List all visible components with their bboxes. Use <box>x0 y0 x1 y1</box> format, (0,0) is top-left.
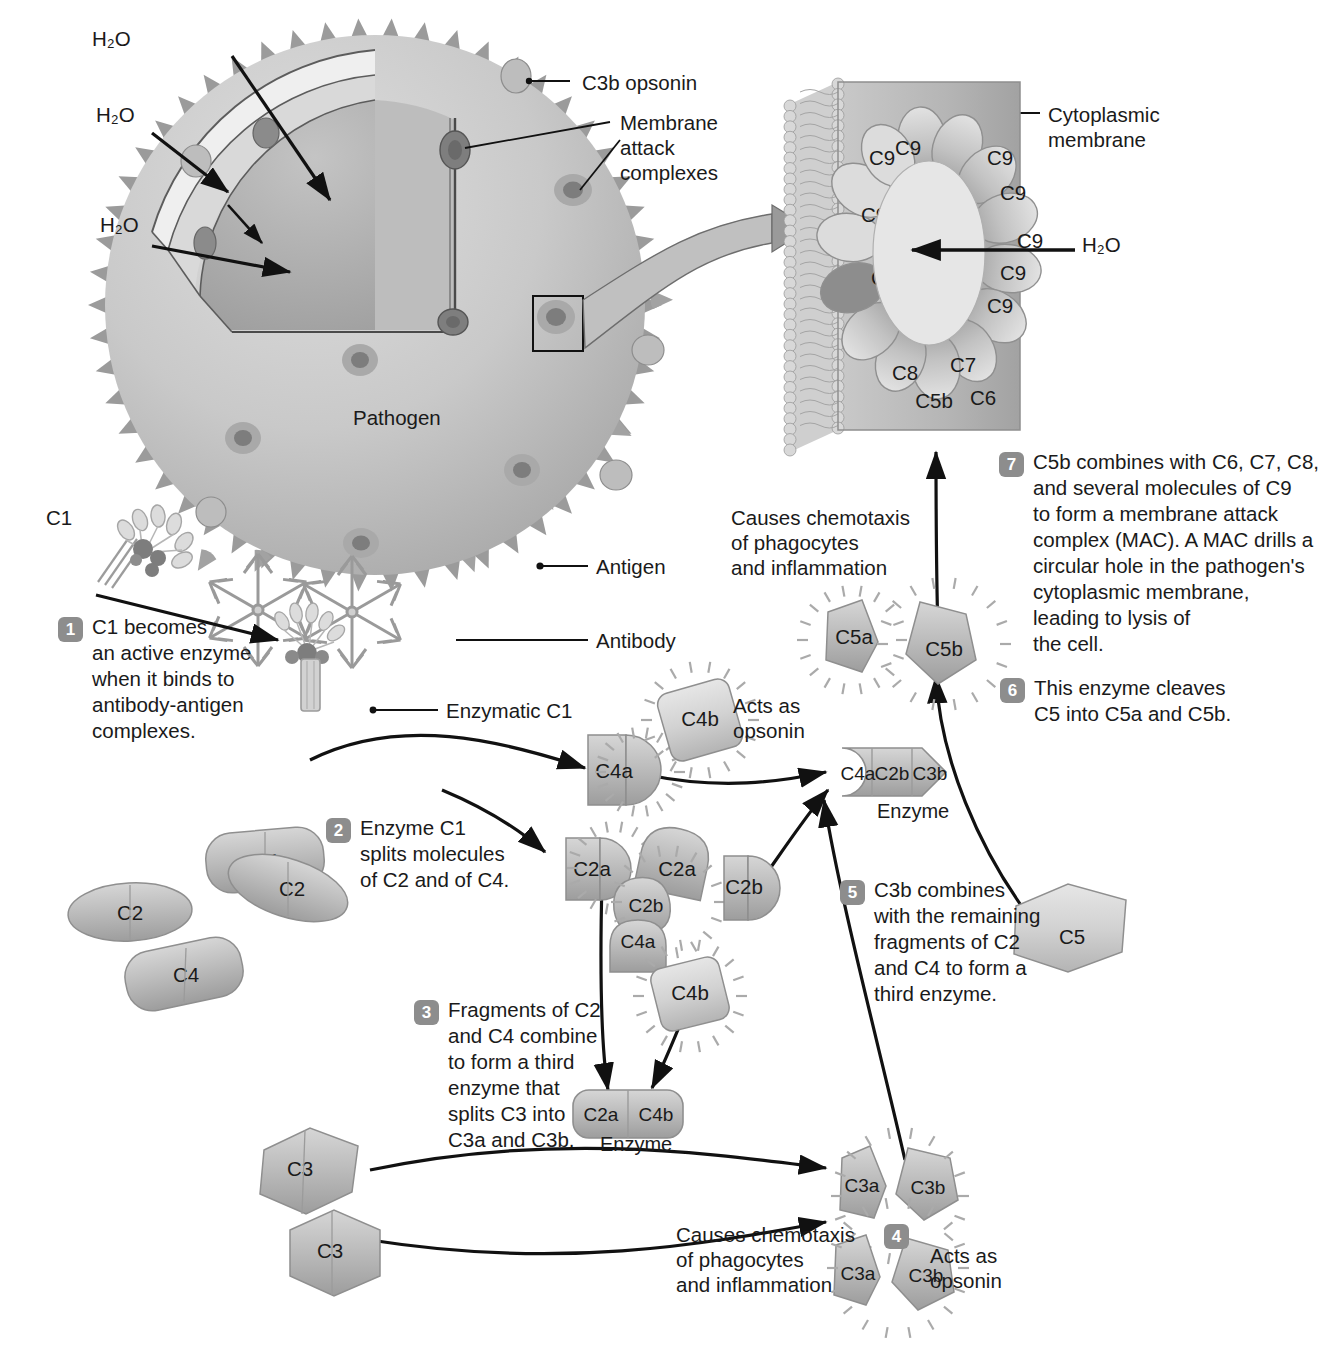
mac-subunit-label: C7 <box>950 353 976 376</box>
molecule-label: C5 <box>1059 925 1085 948</box>
step-text-3: Fragments of C2 and C4 combine to form a… <box>448 997 601 1153</box>
step-badge-4: 4 <box>884 1224 909 1249</box>
label-acts-as-opsonin-c3b: Acts as opsonin <box>930 1243 1002 1293</box>
step-badge-6: 6 <box>1000 678 1025 703</box>
molecule-label: C4a <box>595 759 633 782</box>
mac-subunit-label: C9 <box>1000 261 1026 284</box>
label-chemotaxis-c5a: Causes chemotaxis of phagocytes and infl… <box>731 505 910 580</box>
molecule-label: C4 <box>173 963 199 986</box>
step-badge-3: 3 <box>414 1000 439 1025</box>
label-acts-as-opsonin-c4b: Acts as opsonin <box>733 693 805 743</box>
label-antibody: Antibody <box>596 628 676 653</box>
molecule-label: C2b <box>629 895 664 916</box>
molecule-label: C4b <box>639 1104 674 1125</box>
step-badge-2: 2 <box>326 818 351 843</box>
molecule-label: C3b <box>911 1177 946 1198</box>
molecule-label: C2b <box>875 763 910 784</box>
molecule-label: C4a <box>621 931 656 952</box>
molecule-label: C2a <box>573 857 611 880</box>
pathogen-cell <box>88 18 810 592</box>
mac-subunit-label: C6 <box>970 386 996 409</box>
mac-subunit-label: C9 <box>987 146 1013 169</box>
mac-detail-panel: C9C9C9C9C9C9C9C9C9C9C8C7C6C5b <box>784 78 1075 456</box>
label-antigen: Antigen <box>596 554 666 579</box>
label-h2o-mac: H₂O <box>1082 232 1121 257</box>
label-enzyme-c2a-c4b: Enzyme <box>600 1133 672 1156</box>
molecule-label: C3b <box>913 763 948 784</box>
molecule-label: C5b <box>925 637 963 660</box>
label-chemotaxis-c3a: Causes chemotaxis of phagocytes and infl… <box>676 1222 855 1297</box>
label-h2o-3: H₂O <box>100 212 139 237</box>
complement-system-diagram: C9C9C9C9C9C9C9C9C9C9C8C7C6C5b <box>0 0 1338 1351</box>
molecule-label: C3 <box>317 1239 343 1262</box>
mac-subunit-label: C9 <box>987 294 1013 317</box>
molecule-label: C4a <box>841 763 876 784</box>
label-pathogen: Pathogen <box>353 405 441 430</box>
molecule-label: C4b <box>671 981 709 1004</box>
step-text-5: C3b combines with the remaining fragment… <box>874 877 1040 1007</box>
step-text-6: This enzyme cleaves C5 into C5a and C5b. <box>1034 675 1231 727</box>
molecule-label: C2 <box>279 877 305 900</box>
mac-subunit-label: C9 <box>895 136 921 159</box>
mac-subunit-label: C9 <box>869 146 895 169</box>
molecule-label: C2a <box>658 857 696 880</box>
step-text-1: C1 becomes an active enzyme when it bind… <box>92 614 252 744</box>
molecule-label: C5a <box>835 625 873 648</box>
label-h2o-1: H₂O <box>92 26 131 51</box>
c1-molecule-free <box>98 504 197 588</box>
label-cytoplasmic-membrane: Cytoplasmic membrane <box>1048 102 1160 152</box>
step-badge-5: 5 <box>840 880 865 905</box>
step-badge-1: 1 <box>58 617 83 642</box>
mac-subunit-label: C8 <box>892 361 918 384</box>
mac-subunit-label: C9 <box>1000 181 1026 204</box>
label-enzymatic-c1: Enzymatic C1 <box>446 698 572 723</box>
label-enzyme-c4a-c2b-c3b: Enzyme <box>877 800 949 823</box>
molecule-label: C2b <box>725 875 763 898</box>
step-text-7: C5b combines with C6, C7, C8, and severa… <box>1033 449 1319 657</box>
label-c1: C1 <box>46 505 72 530</box>
label-h2o-2: H₂O <box>96 102 135 127</box>
step-badge-7: 7 <box>999 452 1024 477</box>
molecule-label: C4b <box>681 707 719 730</box>
label-membrane-attack-complexes: Membrane attack complexes <box>620 110 718 185</box>
step-text-2: Enzyme C1 splits molecules of C2 and of … <box>360 815 509 893</box>
mac-subunit-label: C5b <box>915 389 953 412</box>
label-c3b-opsonin: C3b opsonin <box>582 70 697 95</box>
molecule-label: C3 <box>287 1157 313 1180</box>
enzymatic-c1 <box>272 602 348 711</box>
molecule-label: C3a <box>845 1175 880 1196</box>
